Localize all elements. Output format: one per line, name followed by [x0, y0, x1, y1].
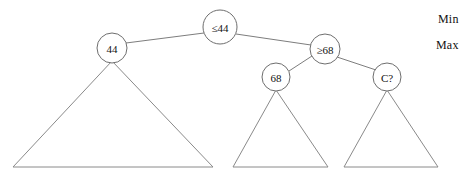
tree-edge-right-to-mid	[289, 56, 312, 71]
node-label-mid: 68	[271, 72, 283, 84]
node-label-right: ≥68	[316, 44, 334, 56]
tree-edge-root-to-left	[126, 33, 204, 43]
subtree-triangle-mid	[233, 90, 328, 167]
tree-diagram: ≤44 44 ≥68 68 C? Min Max	[0, 0, 473, 177]
subtree-triangle-unknown	[344, 90, 438, 167]
level-label-min: Min	[438, 12, 459, 27]
node-label-unknown: C?	[381, 72, 393, 84]
tree-node-root: ≤44	[203, 10, 237, 44]
tree-node-unknown: C?	[373, 63, 401, 91]
tree-node-group: ≤44 44 ≥68 68 C?	[97, 10, 401, 91]
node-label-root: ≤44	[211, 22, 229, 34]
tree-node-left: 44	[97, 33, 127, 63]
tree-canvas: ≤44 44 ≥68 68 C?	[0, 0, 473, 177]
level-label-max: Max	[436, 38, 459, 53]
tree-node-right: ≥68	[310, 34, 340, 64]
node-label-left: 44	[107, 43, 119, 55]
tree-node-mid: 68	[262, 63, 290, 91]
tree-edge-root-to-right	[236, 34, 311, 45]
tree-edge-right-to-unknown	[337, 57, 376, 70]
subtree-triangle-left	[13, 61, 213, 167]
